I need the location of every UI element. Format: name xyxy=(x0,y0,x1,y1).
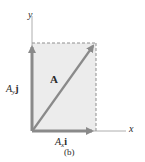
y-component-label: Ayj xyxy=(6,84,19,96)
x-axis-label: x xyxy=(129,124,133,134)
y-axis-label: y xyxy=(28,10,32,20)
figure-caption: (b) xyxy=(64,148,75,157)
diagram-canvas xyxy=(0,0,145,162)
x-component-unit: i xyxy=(64,136,67,147)
resultant-vector-label: A xyxy=(50,74,58,85)
vector-components-diagram: y x A Ayj Axi (b) xyxy=(0,0,145,162)
y-component-unit: j xyxy=(15,83,18,94)
